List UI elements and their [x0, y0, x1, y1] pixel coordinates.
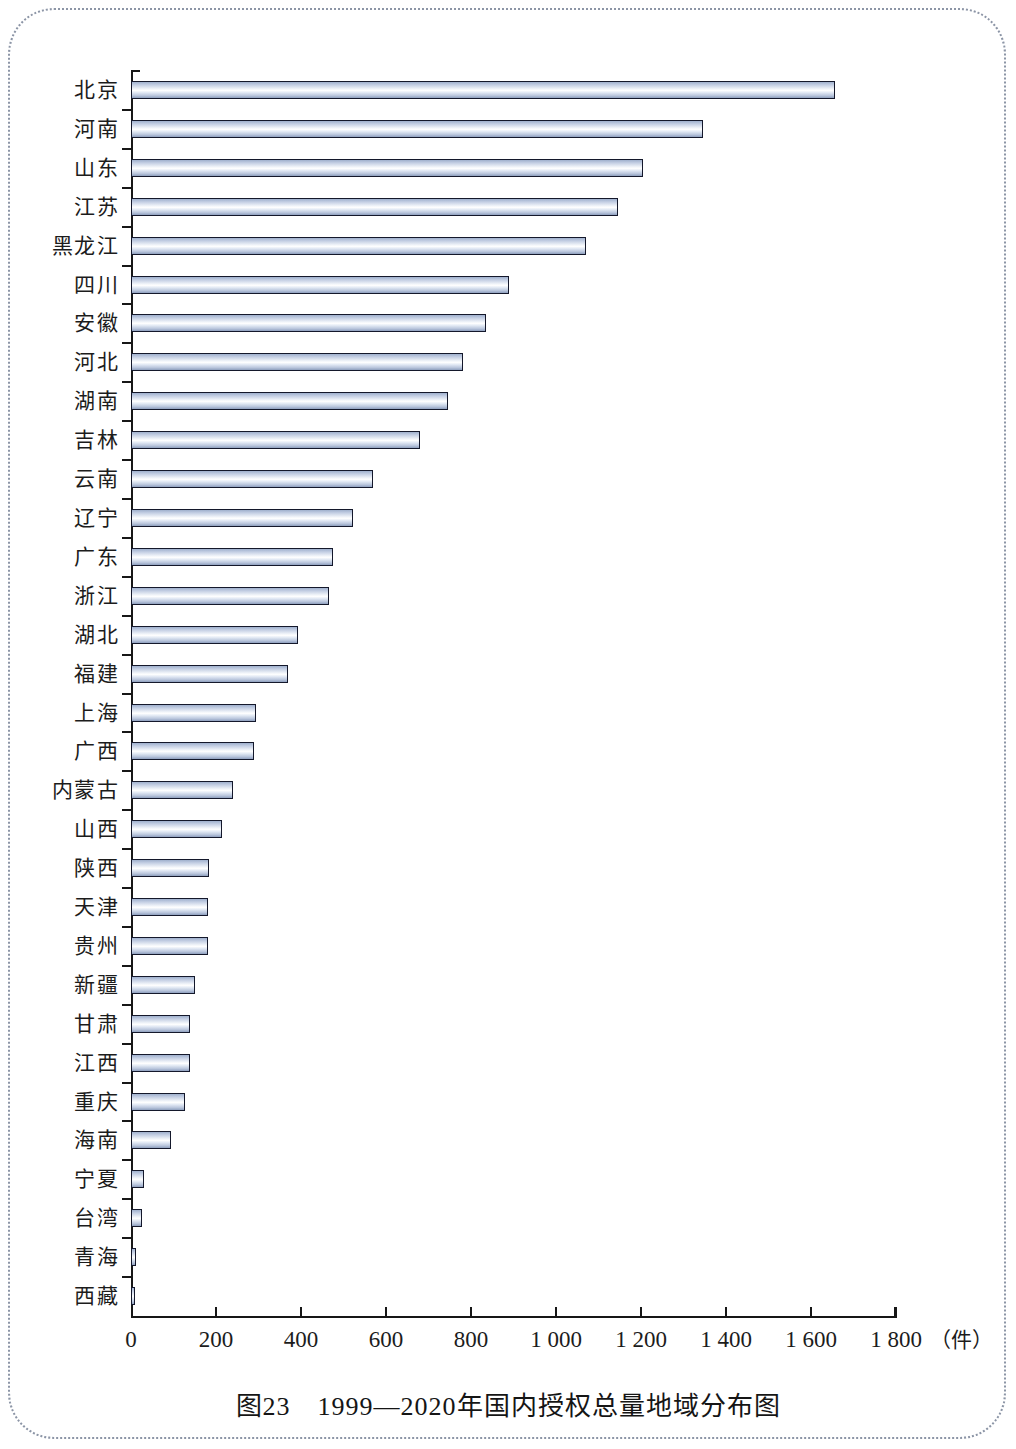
bar-row: 西藏 [0, 1276, 1016, 1316]
bar-19 [131, 781, 233, 799]
y-axis-tick [122, 693, 131, 695]
category-label-6: 四川 [0, 265, 119, 305]
bar-12 [131, 509, 353, 527]
y-axis-tick [122, 420, 131, 422]
x-axis-tick [385, 1307, 387, 1318]
category-label-2: 河南 [0, 109, 119, 149]
x-axis-unit-label: （件） [930, 1325, 993, 1355]
bar-18 [131, 742, 254, 760]
bar-row: 河北 [0, 342, 1016, 382]
y-axis-tick [122, 342, 131, 344]
bar-chart-figure: 北京河南山东江苏黑龙江四川安徽河北湖南吉林云南辽宁广东浙江湖北福建上海广西内蒙古… [0, 0, 1016, 1449]
category-label-13: 广东 [0, 537, 119, 577]
category-label-10: 吉林 [0, 420, 119, 460]
category-label-18: 广西 [0, 731, 119, 771]
y-axis-tick [122, 187, 131, 189]
bar-16 [131, 665, 288, 683]
y-axis-tick [122, 303, 131, 305]
bar-row: 贵州 [0, 926, 1016, 966]
category-label-1: 北京 [0, 70, 119, 110]
category-label-12: 辽宁 [0, 498, 119, 538]
bar-row: 安徽 [0, 303, 1016, 343]
bar-13 [131, 548, 333, 566]
bar-23 [131, 937, 208, 955]
y-axis-tick [122, 848, 131, 850]
category-label-21: 陕西 [0, 848, 119, 888]
bar-row: 广东 [0, 537, 1016, 577]
bar-8 [131, 353, 463, 371]
x-axis-tick [300, 1307, 302, 1318]
y-axis-tick [122, 459, 131, 461]
x-axis-tick [810, 1307, 812, 1318]
bar-row: 江西 [0, 1043, 1016, 1083]
bar-row: 宁夏 [0, 1159, 1016, 1199]
bar-26 [131, 1054, 190, 1072]
category-label-4: 江苏 [0, 187, 119, 227]
bar-2 [131, 120, 703, 138]
category-label-11: 云南 [0, 459, 119, 499]
bar-15 [131, 626, 298, 644]
bar-4 [131, 198, 618, 216]
category-label-24: 新疆 [0, 965, 119, 1005]
bar-3 [131, 159, 643, 177]
bar-row: 黑龙江 [0, 226, 1016, 266]
bar-row: 山东 [0, 148, 1016, 188]
bar-25 [131, 1015, 190, 1033]
y-axis-tick [122, 926, 131, 928]
y-axis-tick [122, 809, 131, 811]
bar-22 [131, 898, 208, 916]
category-label-27: 重庆 [0, 1082, 119, 1122]
bar-30 [131, 1209, 142, 1227]
bar-11 [131, 470, 373, 488]
category-label-30: 台湾 [0, 1198, 119, 1238]
y-axis-tick [122, 576, 131, 578]
bar-17 [131, 704, 256, 722]
y-axis-tick [122, 1237, 131, 1239]
y-axis-tick [122, 265, 131, 267]
category-label-22: 天津 [0, 887, 119, 927]
bar-row: 台湾 [0, 1198, 1016, 1238]
bar-9 [131, 392, 448, 410]
y-axis-tick [122, 615, 131, 617]
bar-29 [131, 1170, 144, 1188]
y-axis-tick [122, 226, 131, 228]
bar-row: 山西 [0, 809, 1016, 849]
category-label-26: 江西 [0, 1043, 119, 1083]
y-axis-tick [122, 731, 131, 733]
category-label-15: 湖北 [0, 615, 119, 655]
x-axis-tick [640, 1307, 642, 1318]
category-label-14: 浙江 [0, 576, 119, 616]
x-axis-tick [895, 1307, 897, 1318]
category-label-25: 甘肃 [0, 1004, 119, 1044]
y-axis-tick [122, 1082, 131, 1084]
category-label-28: 海南 [0, 1120, 119, 1160]
bar-row: 江苏 [0, 187, 1016, 227]
bar-row: 四川 [0, 265, 1016, 305]
category-label-5: 黑龙江 [0, 226, 119, 266]
bar-row: 辽宁 [0, 498, 1016, 538]
category-label-16: 福建 [0, 654, 119, 694]
bar-row: 内蒙古 [0, 770, 1016, 810]
bar-1 [131, 81, 835, 99]
bar-row: 上海 [0, 693, 1016, 733]
y-axis-tick [122, 965, 131, 967]
y-axis-tick [122, 1004, 131, 1006]
bar-5 [131, 237, 586, 255]
bar-row: 青海 [0, 1237, 1016, 1277]
y-axis-tick [122, 381, 131, 383]
bar-row: 福建 [0, 654, 1016, 694]
y-axis-tick [122, 1159, 131, 1161]
bar-row: 陕西 [0, 848, 1016, 888]
bar-7 [131, 314, 486, 332]
bar-32 [131, 1287, 135, 1305]
y-axis-tick [122, 1120, 131, 1122]
bar-row: 重庆 [0, 1082, 1016, 1122]
figure-caption: 图23 1999—2020年国内授权总量地域分布图 [0, 1385, 1016, 1422]
category-label-20: 山西 [0, 809, 119, 849]
category-label-9: 湖南 [0, 381, 119, 421]
bar-21 [131, 859, 209, 877]
y-axis-tick [122, 537, 131, 539]
category-label-32: 西藏 [0, 1276, 119, 1316]
category-label-19: 内蒙古 [0, 770, 119, 810]
bar-6 [131, 276, 509, 294]
